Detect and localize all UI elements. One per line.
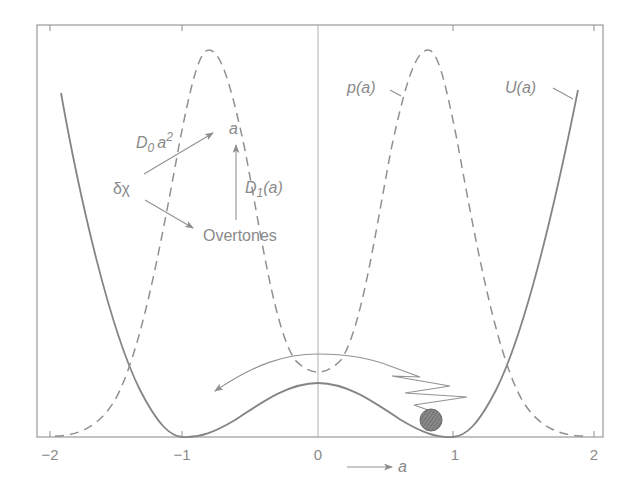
- scheme-node-a: a: [229, 120, 238, 137]
- scheme-edge-label-d1: D1(a): [245, 179, 283, 200]
- tick-label-minus-1: −1: [173, 446, 190, 463]
- interaction-scheme: δχ a Overtones D0a2 D1(a): [113, 120, 283, 244]
- top-ticks: [50, 25, 594, 31]
- double-well-figure: −2 −1 0 1 2 a p(a) U(a) δχ a Overtones D…: [0, 0, 640, 498]
- x-axis-label: a: [398, 458, 407, 475]
- particle-ball: [420, 409, 442, 431]
- tick-label-0: 0: [314, 446, 322, 463]
- tick-label-1: 1: [451, 446, 459, 463]
- tick-label-2: 2: [590, 446, 598, 463]
- fluctuation-zigzag: [390, 366, 467, 410]
- scheme-arrow-chi-to-a: [144, 133, 213, 174]
- scheme-node-overtones: Overtones: [203, 227, 277, 244]
- u-label-leader: [553, 88, 573, 99]
- bottom-ticks: [50, 431, 594, 437]
- tick-label-minus-2: −2: [41, 446, 58, 463]
- scheme-arrow-chi-to-overtones: [145, 200, 193, 228]
- p-label-leader: [390, 90, 401, 96]
- u-curve-label: U(a): [505, 79, 536, 96]
- p-curve-label: p(a): [346, 79, 375, 96]
- scheme-edge-label-d0: D0a2: [136, 130, 173, 155]
- scheme-node-delta-chi: δχ: [113, 180, 130, 197]
